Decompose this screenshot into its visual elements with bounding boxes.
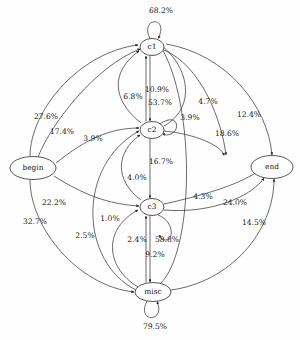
edge-label-misc-c2: 2.5% (75, 231, 94, 240)
edge-label-begin-c1: 27.6% (34, 112, 58, 121)
node-begin-label: begin (23, 163, 44, 172)
edge-label-misc-c3: 1.0% (100, 214, 119, 223)
edge-label-c3-c2: 4.0% (127, 173, 146, 182)
edge-label-c2-end: 18.6% (215, 129, 239, 138)
edge-label-c3-misc: 2.4% (127, 235, 146, 244)
edge-label-c2-c2: 53.7% (148, 98, 172, 107)
edge-label-c3-end: 24.0% (223, 198, 247, 207)
edge-misc-end[interactable] (171, 179, 274, 290)
node-c3-label: c3 (148, 202, 157, 211)
node-c2-label: c2 (148, 125, 157, 134)
edge-label-c1-end: 12.4% (237, 110, 261, 119)
edge-label-misc-end: 14.5% (242, 218, 266, 227)
edge-label-c1-c2: 10.9% (145, 85, 169, 94)
state-transition-diagram: begin c1 c2 c3 misc end 68.2%53.7%58.8%7… (0, 0, 300, 340)
edge-begin-c3[interactable] (54, 176, 139, 206)
edge-label-c3-c3: 58.8% (155, 235, 179, 244)
edge-c3-c2[interactable] (121, 135, 141, 200)
edge-c3-end-b[interactable] (164, 178, 264, 211)
edge-label-misc-misc: 79.5% (143, 322, 167, 331)
edges-layer (30, 22, 274, 318)
edge-label-begin-misc: 32.7% (23, 217, 47, 226)
node-c1-label: c1 (148, 42, 157, 51)
edge-misc-misc[interactable] (144, 301, 158, 318)
edge-label-misc-c1: 9.2% (145, 250, 164, 259)
node-misc-label: misc (144, 287, 161, 296)
edge-labels-layer: 68.2%53.7%58.8%79.5%27.6%17.4%3.9%22.2%3… (23, 6, 266, 331)
edge-label-c1-c1: 68.2% (149, 6, 173, 15)
edge-label-begin-c2: 3.9% (83, 134, 102, 143)
edge-label-begin-c1: 17.4% (50, 127, 74, 136)
edge-label-c2-c1: 3.9% (180, 113, 199, 122)
node-end-label: end (265, 162, 279, 171)
nodes-layer: begin c1 c2 c3 misc end (10, 39, 293, 302)
edge-label-c1-end: 4.7% (198, 97, 217, 106)
edge-c2-c1-curve[interactable] (118, 51, 141, 123)
edge-label-begin-c3: 22.2% (42, 198, 66, 207)
edge-label-c2-c3: 16.7% (149, 157, 173, 166)
edge-label-c2-c1: 6.8% (123, 92, 142, 101)
graph-canvas: begin c1 c2 c3 misc end 68.2%53.7%58.8%7… (0, 0, 300, 340)
edge-c1-end-b[interactable] (166, 44, 272, 155)
edge-label-c3-end: 4.3% (193, 192, 212, 201)
edge-c1-c1[interactable] (148, 22, 161, 39)
edge-misc-c2-curve[interactable] (93, 131, 139, 290)
